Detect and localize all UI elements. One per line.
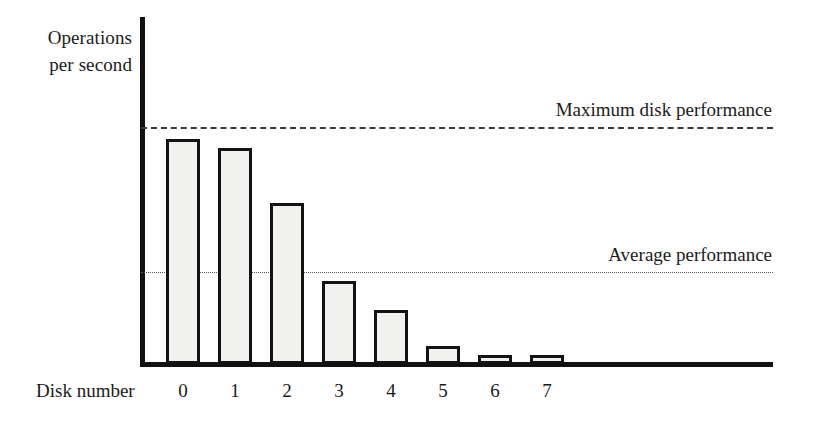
bar-disk-2 — [270, 203, 304, 364]
x-axis-label: Disk number — [36, 379, 135, 403]
x-tick-label-7: 7 — [530, 379, 564, 403]
bar-disk-4 — [374, 310, 408, 365]
bar-disk-6 — [478, 355, 512, 364]
x-tick-label-4: 4 — [374, 379, 408, 403]
bar-disk-7 — [530, 355, 564, 364]
x-tick-label-1: 1 — [218, 379, 252, 403]
x-tick-label-0: 0 — [166, 379, 200, 403]
bar-disk-1 — [218, 148, 252, 364]
x-tick-label-5: 5 — [426, 379, 460, 403]
x-tick-label-6: 6 — [478, 379, 512, 403]
bar-disk-5 — [426, 346, 460, 364]
bar-disk-0 — [166, 139, 200, 364]
bars-layer — [0, 0, 816, 421]
bar-disk-3 — [322, 281, 356, 364]
x-tick-label-3: 3 — [322, 379, 356, 403]
x-tick-label-2: 2 — [270, 379, 304, 403]
bar-chart: Operations per second Maximum disk perfo… — [0, 0, 816, 421]
